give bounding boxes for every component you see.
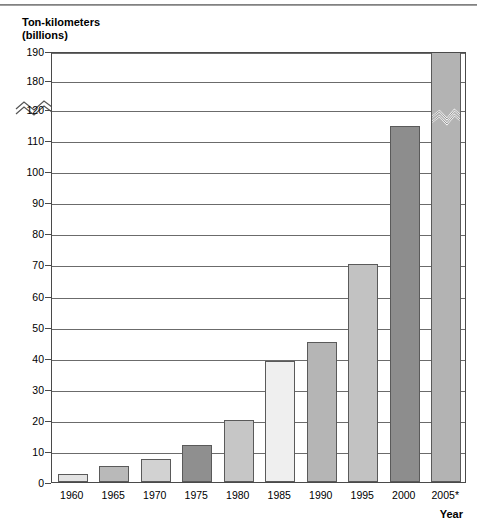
gridline bbox=[52, 82, 465, 83]
bar-shadow bbox=[211, 450, 216, 483]
y-tick-label: 120 bbox=[0, 104, 44, 116]
bar-shadow bbox=[128, 471, 133, 483]
x-tick-label: 2005* bbox=[432, 489, 459, 501]
bar-column[interactable] bbox=[265, 361, 295, 482]
y-axis-title: Ton-kilometers(billions) bbox=[22, 16, 100, 42]
y-tick-label: 100 bbox=[0, 166, 44, 178]
x-tick-label: 1995 bbox=[351, 489, 374, 501]
bar-break-icon bbox=[432, 106, 460, 126]
bar-column[interactable] bbox=[348, 264, 378, 482]
y-tick-label: 90 bbox=[0, 197, 44, 209]
y-tick-label: 80 bbox=[0, 228, 44, 240]
bar-column[interactable] bbox=[99, 466, 129, 482]
y-tick-label: 180 bbox=[0, 75, 44, 87]
y-tick-label: 20 bbox=[0, 415, 44, 427]
x-tick-label: 1970 bbox=[143, 489, 166, 501]
x-tick-label: 1960 bbox=[60, 489, 83, 501]
y-tick-label: 0 bbox=[0, 477, 44, 489]
bar[interactable] bbox=[58, 474, 88, 482]
y-tick-label: 190 bbox=[0, 46, 44, 58]
y-axis-title-line2: (billions) bbox=[22, 29, 68, 41]
bar[interactable] bbox=[265, 361, 295, 482]
bar[interactable] bbox=[99, 466, 129, 482]
x-tick-label: 1980 bbox=[226, 489, 249, 501]
bar-column[interactable] bbox=[431, 52, 461, 482]
plot-area bbox=[51, 52, 466, 483]
bar[interactable] bbox=[307, 342, 337, 482]
x-tick-label: 2000 bbox=[392, 489, 415, 501]
x-tick-label: 1975 bbox=[185, 489, 208, 501]
bar-shadow bbox=[87, 479, 92, 483]
y-tick-label: 50 bbox=[0, 322, 44, 334]
bar[interactable] bbox=[141, 459, 171, 482]
bar[interactable] bbox=[224, 420, 254, 482]
top-divider-rule bbox=[0, 4, 477, 6]
x-tick-label: 1990 bbox=[309, 489, 332, 501]
y-tick-label: 110 bbox=[0, 135, 44, 147]
y-axis-title-line1: Ton-kilometers bbox=[22, 16, 100, 28]
bar-column[interactable] bbox=[58, 474, 88, 482]
y-tick-label: 40 bbox=[0, 353, 44, 365]
bar-shadow bbox=[336, 347, 341, 483]
bar-column[interactable] bbox=[307, 342, 337, 482]
bar-shadow bbox=[377, 269, 382, 483]
bar[interactable] bbox=[390, 126, 420, 482]
y-tick-label: 60 bbox=[0, 291, 44, 303]
bar-shadow bbox=[170, 464, 175, 483]
bar-column[interactable] bbox=[224, 420, 254, 482]
bar-column[interactable] bbox=[182, 445, 212, 482]
gridline bbox=[52, 111, 465, 112]
x-tick-label: 1985 bbox=[268, 489, 291, 501]
bar-shadow bbox=[294, 366, 299, 483]
y-tick-mark bbox=[45, 483, 51, 484]
y-tick-label: 30 bbox=[0, 384, 44, 396]
x-tick-label: 1965 bbox=[102, 489, 125, 501]
y-tick-label: 70 bbox=[0, 259, 44, 271]
bar-column[interactable] bbox=[141, 459, 171, 482]
bar[interactable] bbox=[348, 264, 378, 482]
bar-shadow bbox=[419, 131, 424, 483]
y-tick-label: 10 bbox=[0, 446, 44, 458]
bar-shadow bbox=[253, 425, 258, 483]
chart-page: Ton-kilometers(billions) 010203040506070… bbox=[0, 0, 477, 532]
bar-shadow bbox=[460, 56, 465, 483]
x-axis-title: Year bbox=[440, 508, 463, 520]
gridline bbox=[52, 53, 465, 54]
bar[interactable] bbox=[182, 445, 212, 482]
bar-column[interactable] bbox=[390, 126, 420, 482]
bar[interactable] bbox=[431, 52, 461, 482]
